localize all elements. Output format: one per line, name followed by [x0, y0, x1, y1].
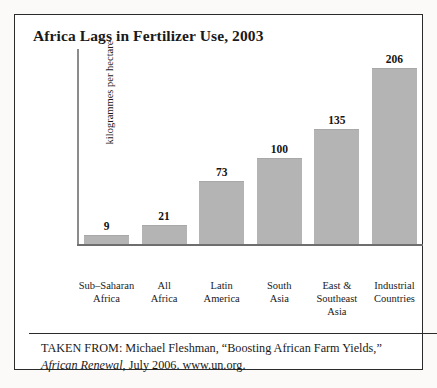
bar-rect	[314, 129, 359, 244]
bar-column: 100	[251, 49, 308, 244]
figure-border-box: Africa Lags in Fertilizer Use, 2003 kilo…	[14, 14, 423, 370]
bar-value-label: 100	[271, 144, 288, 156]
source-caption: TAKEN FROM: Michael Fleshman, “Boosting …	[41, 340, 427, 374]
caption-line-2-rest: , July 2006. www.un.org.	[123, 358, 246, 372]
bar-column: 135	[308, 49, 365, 244]
caption-journal-name: African Renewal	[41, 358, 123, 372]
bar-value-label: 9	[104, 221, 110, 233]
x-axis-tick-labels: Sub–SaharanAfricaAllAfricaLatinAmericaSo…	[78, 279, 423, 318]
bar-rect	[199, 181, 244, 244]
bar-value-label: 135	[328, 115, 345, 127]
caption-divider	[29, 333, 437, 334]
tick-label-line: Africa	[136, 292, 193, 305]
tick-label-line: Industrial	[366, 279, 423, 292]
tick-label-line: Africa	[78, 292, 135, 305]
caption-line-2: African Renewal, July 2006. www.un.org.	[41, 357, 427, 374]
page-title: Africa Lags in Fertilizer Use, 2003	[33, 27, 264, 45]
x-axis-line	[77, 244, 423, 246]
tick-label-line: Asia	[308, 305, 365, 318]
bar-value-label: 21	[158, 211, 170, 223]
tick-label-line: Asia	[251, 292, 308, 305]
tick-label-line: Sub–Saharan	[78, 279, 135, 292]
caption-line-1: TAKEN FROM: Michael Fleshman, “Boosting …	[41, 340, 427, 357]
bar-column: 206	[366, 49, 423, 244]
tick-label-line: Countries	[366, 292, 423, 305]
tick-label-line: Latin	[193, 279, 250, 292]
bar-rect	[257, 158, 302, 244]
bar-column: 73	[193, 49, 250, 244]
bar-value-label: 206	[386, 54, 403, 66]
tick-label-line: South	[251, 279, 308, 292]
x-axis-tick-label: Sub–SaharanAfrica	[78, 279, 135, 318]
x-axis-tick-label: AllAfrica	[136, 279, 193, 318]
x-axis-tick-label: LatinAmerica	[193, 279, 250, 318]
x-axis-tick-label: East &SoutheastAsia	[308, 279, 365, 318]
tick-label-line: East &	[308, 279, 365, 292]
bar-series: 92173100135206	[78, 49, 423, 244]
bar-rect	[84, 235, 129, 244]
tick-label-line: America	[193, 292, 250, 305]
bar-value-label: 73	[216, 167, 228, 179]
bar-rect	[372, 68, 417, 244]
x-axis-tick-label: IndustrialCountries	[366, 279, 423, 318]
bar-column: 21	[136, 49, 193, 244]
tick-label-line: All	[136, 279, 193, 292]
figure-page: Africa Lags in Fertilizer Use, 2003 kilo…	[0, 0, 437, 388]
x-axis-tick-label: SouthAsia	[251, 279, 308, 318]
bar-rect	[142, 225, 187, 244]
tick-label-line: Southeast	[308, 292, 365, 305]
bar-column: 9	[78, 49, 135, 244]
chart-plot-area: kilogrammes per hectare 92173100135206	[49, 49, 409, 279]
